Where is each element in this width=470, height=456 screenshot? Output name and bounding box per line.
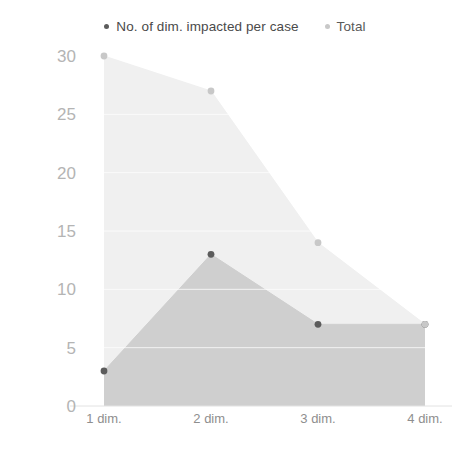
x-axis-tick-label: 3 dim. (300, 412, 335, 425)
x-axis-tick-label: 2 dim. (193, 412, 228, 425)
x-axis-tick-label: 1 dim. (86, 412, 121, 425)
x-axis: 1 dim.2 dim.3 dim.4 dim. (0, 0, 470, 456)
x-axis-tick-label: 4 dim. (407, 412, 442, 425)
area-chart: No. of dim. impacted per case Total 3025… (0, 0, 470, 456)
